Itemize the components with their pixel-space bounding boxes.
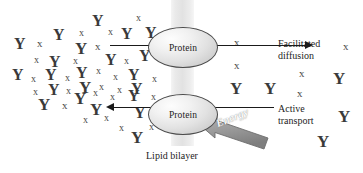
- active-transport-arrowhead: [106, 103, 114, 111]
- molecule-x-right-5: x: [299, 68, 305, 79]
- molecule-y-left-33: Y: [38, 96, 50, 113]
- protein-top-label: Protein: [169, 43, 197, 53]
- molecule-y-left-17: Y: [12, 67, 24, 83]
- active-transport-line1: Active: [278, 103, 314, 115]
- molecule-x-left-10: x: [95, 41, 101, 52]
- molecule-x-left-6: x: [136, 13, 141, 23]
- molecule-y-left-0: Y: [14, 36, 26, 52]
- facilitated-diffusion-line2: diffusion: [278, 50, 320, 62]
- molecule-x-right-0: x: [234, 37, 240, 48]
- molecule-x-left-34: x: [62, 100, 68, 111]
- molecule-y-right-8: Y: [338, 108, 350, 125]
- molecule-x-left-3: x: [79, 28, 84, 38]
- molecule-x-right-2: x: [343, 41, 349, 52]
- molecule-y-left-14: Y: [105, 52, 117, 68]
- molecule-y-left-38: Y: [128, 88, 140, 104]
- molecule-x-left-25: x: [152, 74, 157, 84]
- active-transport-caption: Active transport: [278, 103, 314, 126]
- molecule-y-right-9: Y: [317, 133, 329, 150]
- molecule-x-left-20: x: [65, 73, 70, 83]
- molecule-y-right-3: Y: [230, 80, 242, 97]
- molecule-y-right-4: Y: [264, 80, 276, 97]
- protein-bottom-label: Protein: [169, 110, 197, 120]
- facilitated-diffusion-caption: Facilitated diffusion: [278, 38, 320, 61]
- lipid-bilayer-caption: Lipid bilayer: [146, 150, 198, 162]
- protein-pump-bottom: Protein: [148, 94, 218, 135]
- molecule-y-left-35: Y: [74, 90, 86, 107]
- molecule-x-left-41: x: [104, 113, 109, 123]
- molecule-x-right-1: x: [234, 60, 240, 71]
- molecule-x-left-43: x: [119, 123, 124, 133]
- molecule-x-left-37: x: [110, 92, 115, 102]
- molecule-y-left-39: Y: [90, 101, 102, 118]
- molecule-x-left-40: x: [83, 115, 88, 125]
- molecule-y-left-4: Y: [92, 13, 104, 29]
- molecule-x-left-1: x: [37, 38, 43, 49]
- active-transport-line2: transport: [278, 115, 314, 127]
- protein-channel-top: Protein: [148, 27, 218, 68]
- molecule-x-left-30: x: [99, 82, 104, 92]
- molecule-y-left-2: Y: [53, 27, 65, 43]
- molecule-y-left-7: Y: [121, 26, 133, 42]
- molecule-x-left-18: x: [31, 74, 36, 84]
- molecule-x-left-15: x: [124, 56, 129, 66]
- molecule-y-right-7: Y: [333, 70, 345, 87]
- facilitated-diffusion-line1: Facilitated: [278, 38, 320, 50]
- molecule-x-left-22: x: [96, 66, 101, 76]
- molecule-y-left-45: Y: [131, 129, 143, 146]
- molecule-x-right-6: x: [297, 88, 303, 99]
- molecule-x-left-31: x: [117, 85, 122, 95]
- molecule-x-left-23: x: [113, 72, 118, 82]
- molecule-x-left-36: x: [93, 88, 98, 98]
- molecule-x-left-5: x: [108, 27, 113, 37]
- molecule-x-left-28: x: [66, 86, 71, 96]
- membrane-transport-diagram: YxYxYxxYYYxxYxYxYYxYxYxxYxxYxYxxYYxYxxYY…: [0, 0, 363, 173]
- molecule-x-left-11: x: [34, 55, 39, 65]
